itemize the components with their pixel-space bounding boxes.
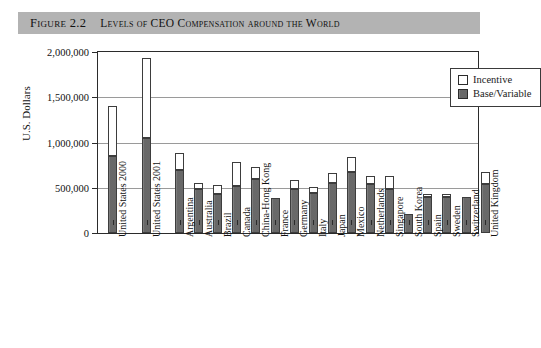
- x-axis-tick: [447, 220, 448, 225]
- y-axis-tick: [92, 233, 98, 234]
- y-axis-tick-label: 1,000,000: [47, 137, 89, 148]
- bar-group: [213, 185, 222, 233]
- y-axis-tick-label: 500,000: [55, 182, 89, 193]
- x-axis-tick: [237, 220, 238, 225]
- x-axis-tick: [294, 220, 295, 225]
- x-axis-category-label: Switzerland: [470, 189, 481, 237]
- x-axis-tick: [332, 220, 333, 225]
- bar-segment-incentive: [328, 173, 337, 183]
- figure-number: Figure 2.2: [30, 16, 86, 31]
- x-axis-category-label: Argentina: [184, 197, 195, 237]
- x-axis-tick: [147, 220, 148, 225]
- y-axis-tick: [92, 52, 98, 53]
- y-axis-title: U.S. Dollars: [20, 86, 32, 141]
- bar-segment-incentive: [108, 106, 117, 156]
- bar-segment-incentive: [194, 183, 203, 189]
- x-axis-category-label: United States 2000: [117, 161, 128, 237]
- x-axis-category-label: Canada: [241, 207, 252, 237]
- incentive-swatch: [458, 75, 468, 85]
- x-axis-category-label: Singapore: [394, 196, 405, 237]
- x-axis-tick: [390, 220, 391, 225]
- x-axis-tick: [218, 220, 219, 225]
- bar-segment-incentive: [442, 194, 451, 197]
- x-axis-category-label: Spain: [432, 214, 443, 237]
- x-axis-category-label: Germany: [298, 200, 309, 237]
- x-axis-category-label: Netherlands: [375, 189, 386, 237]
- bar-group: [108, 106, 117, 233]
- figure-title: Levels of CEO Compensation around the Wo…: [100, 17, 339, 29]
- bar-segment-base-variable: [213, 194, 222, 233]
- gridline: [98, 97, 478, 98]
- bar-segment-base-variable: [366, 184, 375, 233]
- x-axis-tick: [371, 220, 372, 225]
- y-axis-tick: [92, 188, 98, 189]
- bar-segment-incentive: [309, 187, 318, 193]
- bar-segment-incentive: [290, 180, 299, 189]
- x-axis-tick: [409, 220, 410, 225]
- x-axis-category-label: Brazil: [222, 213, 233, 237]
- x-axis-tick: [199, 220, 200, 225]
- bar-segment-incentive: [142, 58, 151, 138]
- gridline: [98, 143, 478, 144]
- x-axis-tick: [113, 220, 114, 225]
- bar-segment-incentive: [385, 176, 394, 189]
- y-axis-tick: [92, 97, 98, 98]
- bar-segment-incentive: [366, 176, 375, 183]
- bar-segment-base-variable: [385, 189, 394, 233]
- bar-group: [423, 194, 432, 233]
- x-axis-tick: [275, 220, 276, 225]
- x-axis-category-label: Australia: [203, 200, 214, 237]
- x-axis-tick: [180, 220, 181, 225]
- x-axis-category-label: United States 2001: [151, 161, 162, 237]
- chart: U.S. Dollars 0500,0001,000,0001,500,0002…: [0, 38, 498, 348]
- base-variable-swatch: [458, 89, 468, 99]
- chart-legend: Incentive Base/Variable: [450, 68, 541, 107]
- legend-item-base-variable: Base/Variable: [458, 87, 531, 101]
- bar-segment-incentive: [423, 194, 432, 197]
- x-axis-tick: [466, 220, 467, 225]
- x-axis-category-label: Japan: [336, 214, 347, 237]
- bar-segment-base-variable: [194, 189, 203, 233]
- x-axis-category-label: China-Hong Kong: [260, 163, 271, 237]
- y-axis-tick-label: 2,000,000: [47, 47, 89, 58]
- bar-segment-incentive: [213, 185, 222, 194]
- bar-segment-incentive: [232, 162, 241, 186]
- x-axis-tick: [256, 220, 257, 225]
- y-axis-tick-label: 1,500,000: [47, 92, 89, 103]
- bar-segment-base-variable: [423, 197, 432, 233]
- y-axis-tick-label: 0: [84, 228, 89, 239]
- x-axis-tick: [351, 220, 352, 225]
- x-axis-category-label: Italy: [317, 219, 328, 237]
- bar-group: [194, 183, 203, 233]
- bar-segment-base-variable: [232, 186, 241, 233]
- x-axis-tick: [313, 220, 314, 225]
- bar-group: [142, 58, 151, 233]
- y-axis-tick: [92, 143, 98, 144]
- x-axis-category-label: France: [279, 210, 290, 237]
- figure-caption-bar: Figure 2.2 Levels of CEO Compensation ar…: [18, 12, 480, 34]
- bar-segment-base-variable: [142, 138, 151, 233]
- bar-segment-incentive: [175, 153, 184, 169]
- legend-item-incentive: Incentive: [458, 73, 531, 87]
- bar-segment-incentive: [347, 157, 356, 172]
- x-axis-category-label: Mexico: [355, 206, 366, 237]
- x-axis-tick: [485, 220, 486, 225]
- x-axis-category-label: South Korea: [413, 187, 424, 237]
- x-axis-category-label: Sweden: [451, 205, 462, 237]
- legend-label-incentive: Incentive: [473, 73, 512, 87]
- legend-label-base-variable: Base/Variable: [473, 87, 531, 101]
- x-axis-category-label: United Kingdom: [489, 170, 500, 238]
- x-axis-tick: [428, 220, 429, 225]
